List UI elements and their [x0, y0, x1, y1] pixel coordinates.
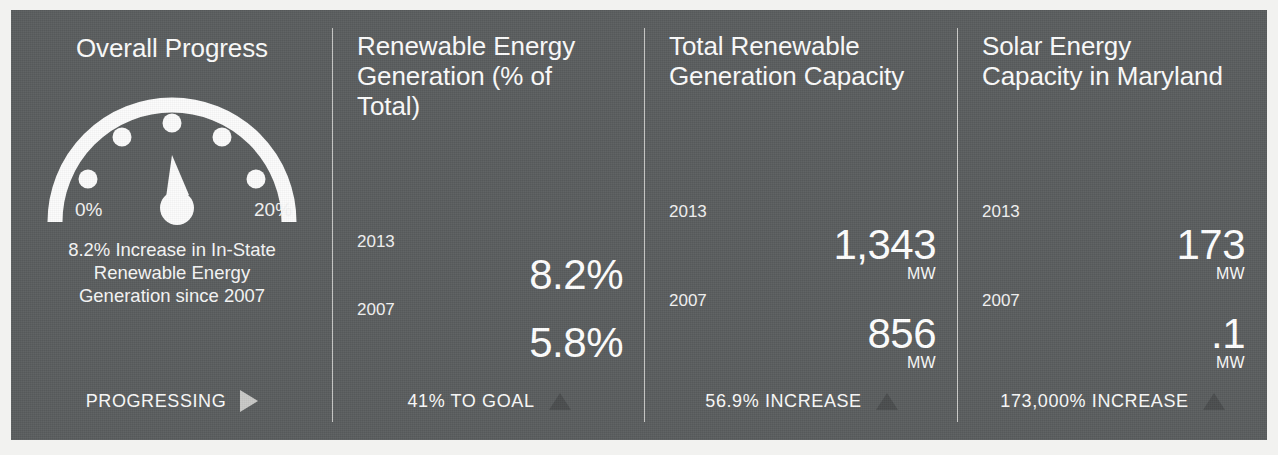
metric-row: 2007 5.8%: [357, 300, 623, 365]
metric-unit: MW: [982, 354, 1245, 371]
panel-title-solar-capacity-maryland: Solar Energy Capacity in Maryland: [982, 31, 1251, 91]
metric-value: .1: [982, 312, 1245, 356]
triangle-right-icon: [240, 390, 258, 412]
panel-title-line: Total): [357, 91, 629, 121]
footer-status-label: 173,000% INCREASE: [1000, 391, 1188, 412]
footer-status-label: 41% TO GOAL: [408, 391, 535, 412]
footer-status-label: 56.9% INCREASE: [705, 391, 861, 412]
metric-year: 2007: [982, 291, 1245, 310]
triangle-up-icon: [1203, 393, 1225, 410]
dashboard: Overall Progress: [0, 0, 1278, 455]
metric-year: 2013: [982, 202, 1245, 221]
triangle-up-icon: [876, 393, 898, 410]
panel-total-generation-capacity: Total Renewable Generation Capacity 2013…: [645, 10, 958, 440]
metric-year: 2013: [669, 202, 936, 221]
gauge-tick-dot: [163, 114, 182, 133]
panel-title-overall-progress: Overall Progress: [11, 33, 333, 63]
gauge-caption-line: Generation since 2007: [27, 284, 317, 307]
footer-solar-capacity-maryland: 173,000% INCREASE: [958, 391, 1267, 412]
panel-renewable-generation-percent: Renewable Energy Generation (% of Total)…: [333, 10, 645, 440]
metric-row: 2013 173 MW: [982, 202, 1245, 282]
metric-value: 1,343: [669, 223, 936, 267]
footer-renewable-generation-percent: 41% TO GOAL: [333, 391, 645, 412]
panel-title-line: Generation (% of: [357, 61, 629, 91]
gauge-caption-line: 8.2% Increase in In-State: [27, 238, 317, 261]
panel-title-line: Generation Capacity: [669, 61, 942, 91]
panel-title-line: Solar Energy: [982, 31, 1251, 61]
gauge-needle: [160, 155, 194, 225]
panel-title-line: Renewable Energy: [357, 31, 629, 61]
panel-board: Overall Progress: [11, 10, 1267, 440]
gauge-caption-line: Renewable Energy: [27, 261, 317, 284]
metric-year: 2013: [357, 232, 623, 251]
gauge-min-label: 0%: [75, 199, 102, 221]
footer-overall-progress: PROGRESSING: [11, 390, 333, 412]
metric-value: 173: [982, 223, 1245, 267]
metric-row: 2007 856 MW: [669, 291, 936, 371]
panel-title-line: Total Renewable: [669, 31, 942, 61]
panel-title-total-generation-capacity: Total Renewable Generation Capacity: [669, 31, 942, 91]
gauge-max-label: 20%: [254, 199, 292, 221]
gauge-caption: 8.2% Increase in In-State Renewable Ener…: [27, 238, 317, 307]
metric-row: 2013 8.2%: [357, 232, 623, 297]
metric-row: 2007 .1 MW: [982, 291, 1245, 371]
gauge-tick-dot: [247, 170, 266, 189]
gauge-tick-dot: [113, 128, 132, 147]
footer-total-generation-capacity: 56.9% INCREASE: [645, 391, 958, 412]
panel-solar-capacity-maryland: Solar Energy Capacity in Maryland 2013 1…: [958, 10, 1267, 440]
triangle-up-icon: [549, 393, 571, 410]
metric-year: 2007: [357, 300, 623, 319]
gauge-tick-dot: [79, 170, 98, 189]
metric-value: 5.8%: [357, 321, 623, 365]
panel-title-line: Capacity in Maryland: [982, 61, 1251, 91]
panel-overall-progress: Overall Progress: [11, 10, 333, 440]
gauge-tick-dot: [213, 128, 232, 147]
metric-row: 2013 1,343 MW: [669, 202, 936, 282]
metric-value: 856: [669, 312, 936, 356]
metric-value: 8.2%: [357, 253, 623, 297]
footer-status-label: PROGRESSING: [86, 391, 227, 412]
panel-title-renewable-generation-percent: Renewable Energy Generation (% of Total): [357, 31, 629, 121]
metric-year: 2007: [669, 291, 936, 310]
